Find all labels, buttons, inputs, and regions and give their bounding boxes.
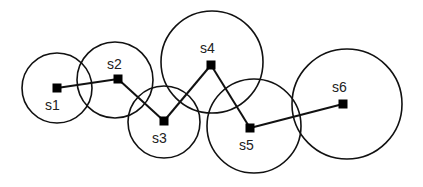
node-label-s5: s5: [239, 137, 254, 153]
node-label-s2: s2: [107, 56, 122, 72]
sensor-network-diagram: s1s2s3s4s5s6: [0, 0, 423, 187]
diagram-canvas: s1s2s3s4s5s6: [0, 0, 423, 187]
node-label-s3: s3: [152, 130, 167, 146]
sensor-node-s1: [53, 84, 62, 93]
node-label-s6: s6: [332, 79, 347, 95]
node-label-s4: s4: [200, 40, 215, 56]
edge-s2-s3: [118, 79, 164, 121]
sensor-node-s5: [246, 124, 255, 133]
sensor-node-s4: [207, 61, 216, 70]
sensor-node-s6: [339, 100, 348, 109]
sensor-node-s2: [114, 75, 123, 84]
node-label-s1: s1: [45, 97, 60, 113]
sensor-node-s3: [160, 117, 169, 126]
edge-s1-s2: [57, 79, 118, 88]
